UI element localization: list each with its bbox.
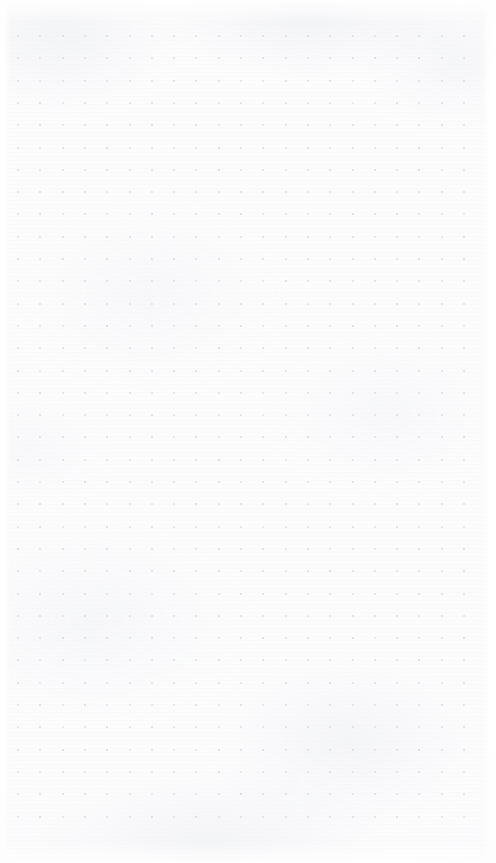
dot-grid-canvas[interactable]: Empty dot grid page Untitled xyxy=(0,0,496,863)
paper-background xyxy=(0,0,496,863)
